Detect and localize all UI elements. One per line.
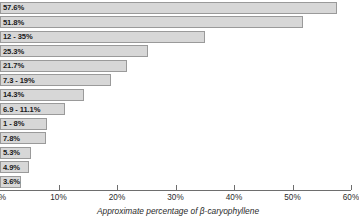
bar-value-label: 7.3 - 19% bbox=[3, 74, 35, 87]
bar-row: 14.3% bbox=[0, 88, 356, 103]
bar-row: 5.3% bbox=[0, 146, 356, 161]
x-axis-tick bbox=[176, 185, 177, 190]
bar-value-label: 7.8% bbox=[3, 132, 20, 145]
bar-row: 4.9% bbox=[0, 161, 356, 176]
bar-value-label: 21.7% bbox=[3, 59, 24, 72]
bar-value-label: 14.3% bbox=[3, 88, 24, 101]
x-axis-tick bbox=[117, 185, 118, 190]
bar-row: 7.8% bbox=[0, 132, 356, 147]
bar-value-label: 57.6% bbox=[3, 1, 24, 14]
bar-value-label: 4.9% bbox=[3, 161, 20, 174]
bar-row: 57.6% bbox=[0, 1, 356, 16]
bar-value-label: 6.9 - 11.1% bbox=[3, 103, 40, 116]
x-axis-tick-label: 0% bbox=[0, 193, 6, 202]
bar-value-label: 25.3% bbox=[3, 45, 24, 58]
x-axis-tick bbox=[351, 185, 352, 190]
bar-row: 51.8% bbox=[0, 16, 356, 31]
x-axis-line bbox=[0, 190, 351, 191]
bar-value-label: 5.3% bbox=[3, 146, 20, 159]
bar bbox=[0, 2, 337, 14]
x-axis-tick-label: 50% bbox=[284, 193, 300, 202]
x-axis-tick-label: 60% bbox=[343, 193, 359, 202]
x-axis-tick-label: 20% bbox=[109, 193, 125, 202]
x-axis-tick-label: 40% bbox=[226, 193, 242, 202]
x-axis-title: Approximate percentage of β-caryophyllen… bbox=[0, 206, 356, 216]
bar-row: 6.9 - 11.1% bbox=[0, 103, 356, 118]
bar-value-label: 1 - 8% bbox=[3, 117, 24, 130]
bar bbox=[0, 16, 303, 28]
bar-value-label: 3.6% bbox=[3, 175, 20, 188]
x-axis-tick-label: 10% bbox=[50, 193, 66, 202]
bar-row: 12 - 35% bbox=[0, 30, 356, 45]
bar-row: 21.7% bbox=[0, 59, 356, 74]
plot-area: 57.6%51.8%12 - 35%25.3%21.7%7.3 - 19%14.… bbox=[0, 1, 356, 190]
bar-value-label: 12 - 35% bbox=[3, 30, 33, 43]
bar-row: 25.3% bbox=[0, 45, 356, 60]
bar-row: 7.3 - 19% bbox=[0, 74, 356, 89]
bar-value-label: 51.8% bbox=[3, 16, 24, 29]
bar-row: 1 - 8% bbox=[0, 117, 356, 132]
x-axis-tick bbox=[293, 185, 294, 190]
x-axis-tick-label: 30% bbox=[167, 193, 183, 202]
x-axis-tick bbox=[59, 185, 60, 190]
bar-row: 3.6% bbox=[0, 175, 356, 190]
x-axis-tick bbox=[234, 185, 235, 190]
